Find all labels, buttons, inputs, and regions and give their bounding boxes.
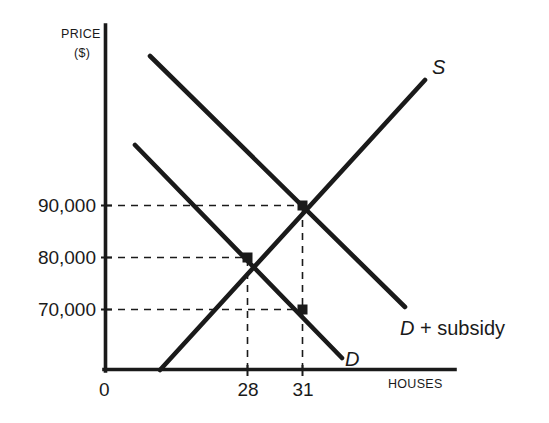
point-equilibrium-90000-31 (298, 201, 308, 211)
supply-demand-chart: PRICE ($) 90,000 80,000 70,000 0 28 31 H… (0, 0, 549, 423)
y-tick-label-90000: 90,000 (0, 196, 96, 215)
y-tick-label-80000: 80,000 (0, 248, 96, 267)
y-axis-title-price: PRICE (61, 28, 101, 41)
point-price-70000-31 (298, 305, 308, 315)
supply-curve-label: S (432, 57, 445, 77)
y-tick-label-70000: 70,000 (0, 300, 96, 319)
demand-plus-subsidy-label-rest: + subsidy (414, 317, 505, 339)
x-tick-label-28: 28 (218, 380, 278, 399)
x-axis-title-houses: HOUSES (388, 378, 443, 391)
demand-curve-label: D (345, 349, 359, 369)
x-tick-label-31: 31 (273, 380, 333, 399)
demand-plus-subsidy-curve (150, 56, 405, 307)
y-axis-title-units: ($) (74, 47, 90, 60)
demand-curve (135, 145, 342, 358)
demand-plus-subsidy-curve-label: D + subsidy (400, 318, 505, 338)
point-equilibrium-80000-28 (243, 253, 253, 263)
demand-plus-subsidy-label-d: D (400, 317, 414, 339)
origin-label-zero: 0 (99, 380, 110, 399)
supply-curve (160, 80, 425, 370)
